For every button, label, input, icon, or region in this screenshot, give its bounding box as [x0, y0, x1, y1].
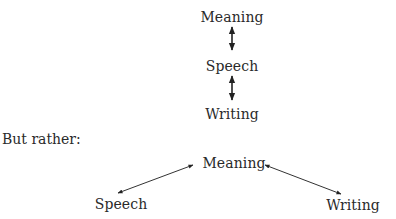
- connector-text: But rather:: [2, 131, 81, 147]
- bottom-node-writing: Writing: [326, 197, 380, 213]
- arrow-meaning-writing-bottom: [265, 165, 341, 194]
- top-node-speech: Speech: [206, 58, 259, 74]
- arrow-speech-meaning-bottom: [118, 165, 193, 193]
- bottom-node-speech: Speech: [95, 196, 148, 212]
- diagram-arrows: [0, 0, 396, 219]
- top-node-meaning: Meaning: [200, 9, 263, 25]
- top-node-writing: Writing: [205, 106, 259, 122]
- bottom-node-meaning: Meaning: [202, 155, 265, 171]
